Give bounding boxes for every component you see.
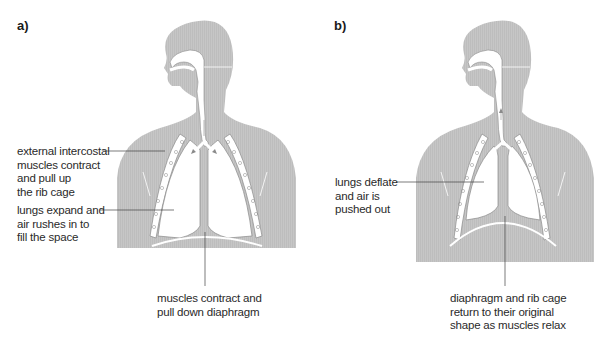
panel-a-figure xyxy=(100,20,296,286)
torso xyxy=(117,20,296,248)
panel-label-a: a) xyxy=(17,18,29,33)
panel-label-b: b) xyxy=(334,18,346,33)
annotation-lungs-expand: lungs expand and air rushes in to fill t… xyxy=(17,204,105,245)
annotation-diaphragm-contract: muscles contract and pull down diaphragm xyxy=(157,292,262,319)
panel-b-figure xyxy=(396,20,594,286)
annotation-lungs-deflate: lungs deflate and air is pushed out xyxy=(335,176,398,217)
annotation-intercostal: external intercostal muscles contract an… xyxy=(17,145,110,199)
annotation-diaphragm-relax: diaphragm and rib cage return to their o… xyxy=(450,292,566,333)
